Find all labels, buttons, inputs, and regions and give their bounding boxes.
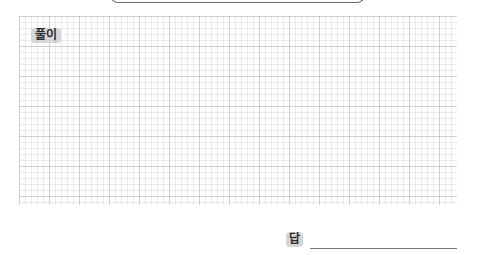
answer-input-line[interactable] (310, 248, 457, 249)
solution-label: 풀이 (31, 28, 61, 43)
answer-label: 답 (286, 232, 303, 247)
solution-grid-area[interactable] (19, 16, 457, 205)
question-box (110, 0, 365, 3)
